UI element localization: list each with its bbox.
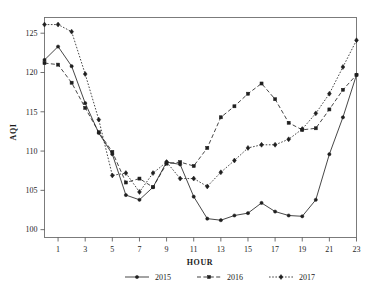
x-tick-label: 17 — [271, 245, 279, 254]
series-line-2017 — [45, 25, 357, 192]
data-point — [138, 198, 141, 201]
data-point — [97, 117, 101, 122]
data-point — [138, 189, 142, 194]
data-point — [124, 193, 127, 196]
data-point — [83, 72, 87, 77]
series-layer — [43, 22, 359, 222]
x-tick-label: 3 — [83, 245, 87, 254]
aqi-line-chart: 100105110115120125 1357911131517192123 A… — [0, 0, 375, 289]
data-point — [314, 127, 317, 130]
y-tick-label: 115 — [26, 108, 38, 117]
data-point — [341, 116, 344, 119]
series-2015 — [43, 45, 358, 222]
data-point — [246, 92, 249, 95]
legend-item-2017[interactable]: 2017 — [269, 273, 315, 282]
y-axis-title: AQI — [9, 124, 18, 141]
x-tick-label: 23 — [353, 245, 361, 254]
x-tick-label: 15 — [244, 245, 252, 254]
legend-label: 2016 — [227, 273, 243, 282]
x-axis-ticks: 1357911131517192123 — [56, 238, 360, 254]
data-point — [206, 217, 209, 220]
legend-item-2015[interactable]: 2015 — [125, 273, 171, 282]
series-2016 — [43, 62, 358, 189]
data-point — [301, 215, 304, 218]
x-tick-label: 1 — [56, 245, 60, 254]
data-point — [56, 45, 59, 48]
legend-marker-2016 — [207, 275, 210, 278]
data-point — [70, 65, 73, 68]
x-tick-label: 7 — [137, 245, 141, 254]
legend-label: 2017 — [299, 273, 315, 282]
data-point — [192, 176, 196, 181]
data-point — [70, 81, 73, 84]
data-point — [43, 22, 47, 27]
data-point — [151, 171, 155, 176]
y-axis-ticks: 100105110115120125 — [26, 29, 45, 234]
data-point — [192, 195, 195, 198]
legend-item-2016[interactable]: 2016 — [197, 273, 243, 282]
data-point — [84, 102, 87, 105]
data-point — [111, 150, 114, 153]
chart-legend: 201520162017 — [125, 273, 315, 282]
data-point — [110, 173, 114, 178]
y-tick-label: 105 — [26, 186, 38, 195]
y-tick-label: 120 — [26, 68, 38, 77]
series-line-2015 — [45, 47, 357, 221]
data-point — [246, 212, 249, 215]
data-point — [56, 22, 60, 27]
data-point — [246, 145, 250, 150]
data-point — [84, 106, 87, 109]
x-tick-label: 9 — [165, 245, 169, 254]
data-point — [192, 164, 195, 167]
data-point — [205, 184, 209, 189]
series-2017 — [43, 22, 359, 194]
data-point — [328, 153, 331, 156]
data-point — [355, 38, 359, 43]
data-point — [260, 82, 263, 85]
data-point — [57, 63, 60, 66]
plot-frame — [45, 18, 357, 238]
data-point — [43, 62, 46, 65]
legend-label: 2015 — [155, 273, 171, 282]
x-tick-label: 21 — [325, 245, 333, 254]
data-point — [260, 201, 263, 204]
x-tick-label: 19 — [298, 245, 306, 254]
data-point — [138, 177, 141, 180]
data-point — [233, 105, 236, 108]
data-point — [70, 29, 74, 34]
data-point — [287, 137, 291, 142]
data-point — [314, 111, 318, 116]
data-point — [273, 210, 276, 213]
data-point — [260, 142, 264, 147]
series-line-2016 — [45, 63, 357, 187]
x-tick-label: 13 — [217, 245, 225, 254]
data-point — [124, 181, 127, 184]
data-point — [124, 171, 128, 176]
data-point — [355, 73, 358, 76]
x-axis-title: HOUR — [187, 258, 213, 267]
data-point — [328, 108, 331, 111]
x-tick-label: 11 — [190, 245, 198, 254]
data-point — [274, 98, 277, 101]
data-point — [151, 186, 154, 189]
y-tick-label: 125 — [26, 29, 38, 38]
legend-marker-2015 — [135, 275, 138, 278]
chart-container: 100105110115120125 1357911131517192123 A… — [0, 0, 375, 289]
y-tick-label: 110 — [26, 147, 38, 156]
y-tick-label: 100 — [26, 225, 38, 234]
data-point — [233, 214, 236, 217]
x-tick-label: 5 — [110, 245, 114, 254]
data-point — [43, 58, 46, 61]
data-point — [219, 116, 222, 119]
data-point — [314, 198, 317, 201]
data-point — [206, 146, 209, 149]
data-point — [341, 88, 344, 91]
legend-marker-2017 — [279, 275, 283, 280]
data-point — [273, 142, 277, 147]
data-point — [219, 219, 222, 222]
data-point — [179, 161, 182, 164]
data-point — [287, 214, 290, 217]
data-point — [287, 121, 290, 124]
data-point — [97, 131, 100, 134]
